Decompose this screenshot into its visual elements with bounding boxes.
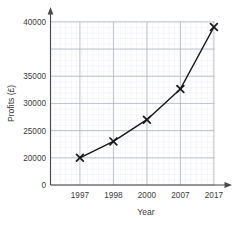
y-tick-label: 35000 xyxy=(23,72,46,81)
x-tick-label: 2007 xyxy=(171,191,190,200)
line-chart: 40000 35000 30000 25000 20000 0 1997 199… xyxy=(0,0,238,227)
y-tick-label: 40000 xyxy=(23,18,46,27)
y-tick-label: 0 xyxy=(41,181,46,190)
x-tick-label: 2017 xyxy=(205,191,224,200)
x-axis-tick-labels: 1997 1998 2000 2007 2017 xyxy=(71,191,224,200)
y-axis-tick-labels: 40000 35000 30000 25000 20000 0 xyxy=(23,18,46,190)
plot-grid xyxy=(51,22,215,185)
x-axis-arrow-icon xyxy=(225,182,233,188)
y-tick-label: 25000 xyxy=(23,127,46,136)
y-axis-arrow-icon xyxy=(48,7,54,15)
y-axis-title: Profits (£) xyxy=(6,85,16,122)
chart-canvas: 40000 35000 30000 25000 20000 0 1997 199… xyxy=(0,0,238,227)
y-tick-label: 30000 xyxy=(23,99,46,108)
x-tick-label: 1998 xyxy=(104,191,123,200)
x-tick-label: 2000 xyxy=(138,191,157,200)
x-axis-title: Year xyxy=(137,207,155,217)
x-tick-label: 1997 xyxy=(71,191,90,200)
y-tick-label: 20000 xyxy=(23,154,46,163)
